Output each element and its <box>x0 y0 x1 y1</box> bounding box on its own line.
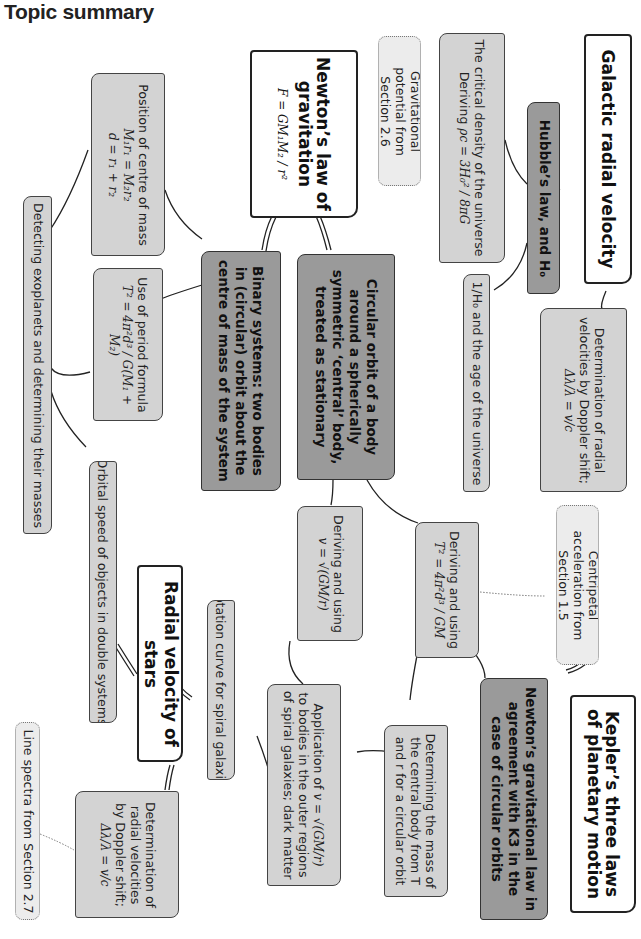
detail-mass-central-body[interactable]: Determining the mass of the central body… <box>384 725 448 897</box>
main-topic-keplers-laws[interactable]: Kepler’s three laws of planetary motion <box>570 695 636 913</box>
detail-orbital-speed[interactable]: Orbital speed of objects in double syste… <box>89 461 117 723</box>
detail-deriving-T2[interactable]: Deriving and using T² = 4π²d³ / GM <box>415 522 479 658</box>
subtopic-hubble[interactable]: Hubble’s law, and H₀ <box>527 102 560 294</box>
detail-doppler-stars[interactable]: Determination of radial velocities by Do… <box>75 791 179 918</box>
newton-equation: F = GM₁M₂ / r² <box>276 88 289 180</box>
detail-centre-of-mass[interactable]: Position of centre of mass M₁r₁ = M₂r₂ d… <box>91 73 165 256</box>
detail-exoplanets[interactable]: Detecting exoplanets and determining the… <box>23 196 52 534</box>
detail-hubble-age[interactable]: 1/H₀ and the age of the universe <box>463 274 490 492</box>
detail-critical-density[interactable]: The critical density of the universe Der… <box>439 33 505 263</box>
main-topic-newtons-law[interactable]: Newton’s law of gravitation F = GM₁M₂ / … <box>250 50 358 218</box>
detail-application-v[interactable]: Application of v = √(GM/r) to bodies in … <box>267 684 341 886</box>
detail-rotation-curve[interactable]: Rotation curve for spiral galaxies <box>207 600 235 780</box>
detail-doppler-galactic[interactable]: Determination of radial velocities by Do… <box>540 308 627 492</box>
ref-line-spectra[interactable]: Line spectra from Section 2.7 <box>15 722 40 920</box>
subtopic-binary-systems[interactable]: Binary systems: two bodies in (circular)… <box>201 251 281 491</box>
ref-centripetal-acceleration[interactable]: Centripetal acceleration from Section 1.… <box>556 505 599 665</box>
main-topic-radial-velocity-stars[interactable]: Radial velocity of stars <box>137 565 183 762</box>
main-topic-galactic-radial-velocity[interactable]: Galactic radial velocity <box>584 34 632 284</box>
detail-period-formula[interactable]: Use of period formula T² = 4π²d³ / G(M₁ … <box>93 268 163 421</box>
subtopic-newton-k3[interactable]: Newton’s gravitational law in agreement … <box>480 678 548 920</box>
ref-gravitational-potential[interactable]: Gravitational potential from Section 2.6 <box>378 36 421 186</box>
detail-deriving-v[interactable]: Deriving and using v = √(GM/r) <box>297 506 363 641</box>
subtopic-circular-orbit[interactable]: Circular orbit of a body around a spheri… <box>297 254 395 480</box>
